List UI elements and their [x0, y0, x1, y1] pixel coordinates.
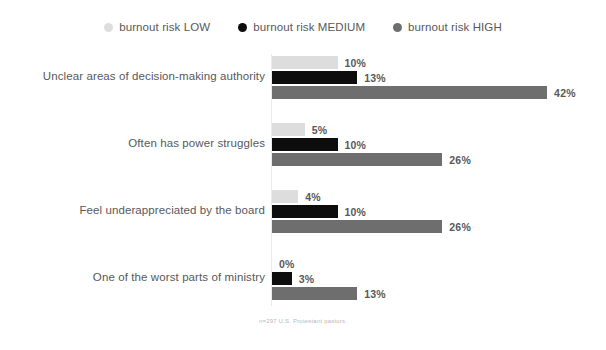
bar-value-label: 26% [449, 154, 471, 166]
legend-item-label: burnout risk MEDIUM [253, 21, 365, 33]
bar-group: Feel underappreciated by the board4%10%2… [0, 190, 606, 237]
bar-value-label: 13% [364, 288, 386, 300]
bar-value-label: 26% [449, 221, 471, 233]
bar-group: Often has power struggles5%10%26% [0, 123, 606, 170]
bar-medium[interactable] [272, 205, 338, 218]
bar-medium[interactable] [272, 138, 338, 151]
bar-value-label: 5% [312, 124, 328, 136]
bar-low[interactable] [272, 56, 338, 69]
bar-medium[interactable] [272, 71, 357, 84]
bar-low[interactable] [272, 123, 305, 136]
bar-value-label: 10% [345, 57, 367, 69]
circle-icon [104, 23, 113, 32]
category-label: Unclear areas of decision-making authori… [15, 70, 265, 82]
chart-legend: burnout risk LOWburnout risk MEDIUMburno… [0, 0, 606, 36]
legend-item-label: burnout risk HIGH [408, 21, 502, 33]
chart-plot-area: Unclear areas of decision-making authori… [0, 52, 606, 310]
category-label: Feel underappreciated by the board [15, 204, 265, 216]
bar-value-label: 10% [345, 139, 367, 151]
circle-icon [393, 23, 402, 32]
chart-footnote: n=297 U.S. Protestant pastors. [0, 318, 606, 324]
bar-high[interactable] [272, 287, 357, 300]
bar-value-label: 4% [305, 191, 321, 203]
legend-item[interactable]: burnout risk HIGH [393, 21, 502, 33]
bar-value-label: 3% [299, 273, 315, 285]
legend-item-label: burnout risk LOW [119, 21, 210, 33]
bar-value-label: 13% [364, 72, 386, 84]
bar-high[interactable] [272, 86, 547, 99]
bar-high[interactable] [272, 220, 442, 233]
bar-group: Unclear areas of decision-making authori… [0, 56, 606, 103]
bar-low[interactable] [272, 190, 298, 203]
bar-medium[interactable] [272, 272, 292, 285]
bar-value-label: 10% [345, 206, 367, 218]
bar-value-label: 42% [554, 87, 576, 99]
category-label: Often has power struggles [15, 137, 265, 149]
bar-group: One of the worst parts of ministry0%3%13… [0, 257, 606, 304]
circle-icon [238, 23, 247, 32]
bar-high[interactable] [272, 153, 442, 166]
legend-item[interactable]: burnout risk LOW [104, 21, 210, 33]
bar-value-label: 0% [279, 258, 295, 270]
category-label: One of the worst parts of ministry [15, 271, 265, 283]
legend-item[interactable]: burnout risk MEDIUM [238, 21, 365, 33]
